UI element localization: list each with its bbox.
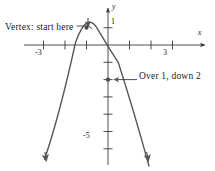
plotted-point-over1-down2 [106,77,110,81]
x-axis [24,41,205,50]
y-axis [104,8,113,165]
parabola-figure: Vertex: start here Over 1, down 2 -3 3 1… [0,0,215,171]
x-tick-label-neg3: -3 [35,48,42,57]
y-axis-label: y [112,2,115,11]
y-tick-label-1: 1 [111,17,115,26]
x-tick-label-3: 3 [163,48,167,57]
x-axis-label: x [198,28,201,37]
step-annotation-label: Over 1, down 2 [139,71,201,81]
y-tick-label-neg5: -5 [83,131,90,140]
vertex-annotation-label: Vertex: start here [5,22,74,32]
parabola-curve [45,22,149,166]
vertex-leader-line [77,18,93,30]
